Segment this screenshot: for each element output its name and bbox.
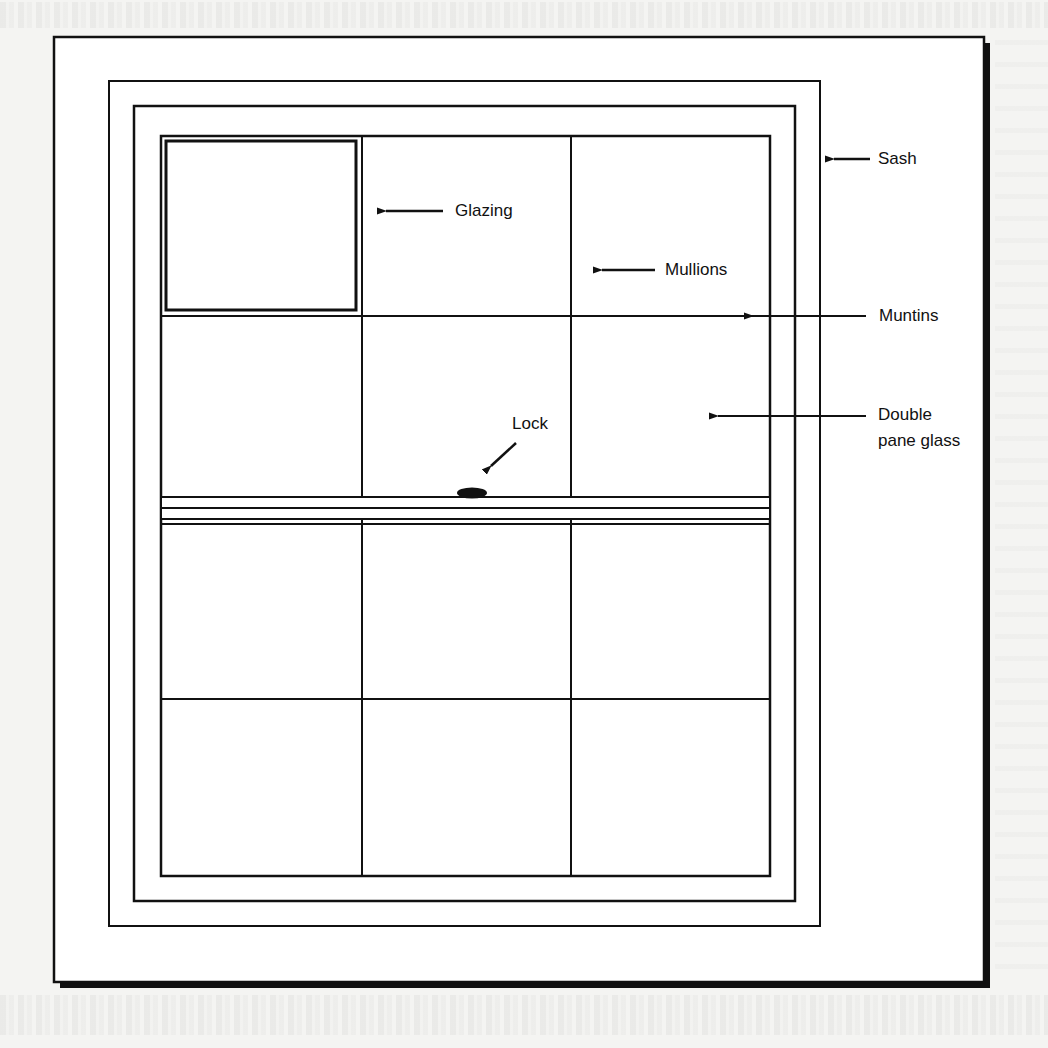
lock-label: Lock: [512, 414, 548, 434]
double-pane-label-line2: pane glass: [878, 431, 960, 451]
glazing-label: Glazing: [455, 201, 513, 221]
lock-icon: [457, 488, 487, 499]
muntins-label: Muntins: [879, 306, 939, 326]
double-pane-label-line1: Double: [878, 405, 932, 425]
mullions-label: Mullions: [665, 260, 727, 280]
sash-label: Sash: [878, 149, 917, 169]
